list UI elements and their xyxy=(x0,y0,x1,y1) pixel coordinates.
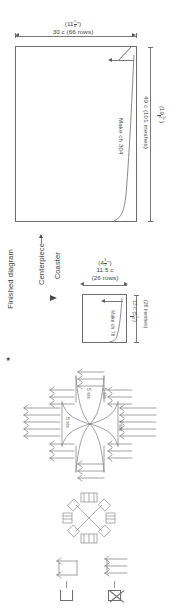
stitch-label-right: 7 sts xyxy=(118,420,123,431)
legend-open-mesh-stitches xyxy=(55,558,81,580)
coaster-width-metric-line1: 11.5 c xyxy=(82,267,128,274)
coaster-label: Coaster xyxy=(54,252,63,279)
coaster-width-arrow-left xyxy=(80,282,84,286)
centerpiece-height-dim-line xyxy=(150,47,151,221)
pattern-sheet: (1178") 30 c (66 rows) Make ch 304 49 c … xyxy=(0,0,176,615)
centerpiece-width-dim-line xyxy=(16,36,136,37)
coaster-foundation-label: Make ch 79 xyxy=(110,310,115,336)
centerpiece-width-cap-left xyxy=(15,33,16,38)
coaster-height-cap-top xyxy=(134,295,139,296)
legend-open-mesh-symbol xyxy=(60,590,73,601)
coaster-height-metric: (26 meshes) xyxy=(143,300,148,328)
centerpiece-foundation-label: Make ch 304 xyxy=(117,118,124,155)
coaster-height-imperial-text: 13 c (518") xyxy=(130,300,139,322)
centerpiece-label: Centerpiece xyxy=(38,243,47,285)
centerpiece-pointer-stem xyxy=(41,238,42,243)
centerpiece-foundation-curve xyxy=(112,55,138,223)
legend-open-mesh-connector xyxy=(66,581,67,588)
centerpiece-height-cap-bottom xyxy=(148,221,153,222)
centerpiece-height-metric: 49 c (101 meshes) xyxy=(142,96,149,149)
centerpiece-width-arrow-right xyxy=(132,33,136,37)
coaster-height-cap-bottom xyxy=(134,342,139,343)
legend-closed-mesh-connector xyxy=(114,581,115,588)
coaster-height-imperial: 13 c (518") xyxy=(130,300,139,322)
finished-diagram-label: Finished diagram xyxy=(7,249,16,309)
coaster-pointer-arrow xyxy=(49,294,58,302)
coaster-direction-arrowhead xyxy=(101,299,105,303)
stitch-label-upper-right: 5 sts xyxy=(102,388,107,399)
centerpiece-width-metric: 30 c (66 rows) xyxy=(38,29,108,36)
coaster-width-arrow-right xyxy=(124,282,128,286)
coaster-width-metric-line2: (26 rows) xyxy=(82,275,128,282)
stitch-chart-diagram xyxy=(20,368,160,480)
legend-closed-mesh-stitches xyxy=(103,556,131,580)
centerpiece-width-cap-right xyxy=(136,33,137,38)
centerpiece-height-cap-top xyxy=(148,47,153,48)
stitch-label-left: 5 sts xyxy=(65,417,70,428)
finished-diagram-marker: ★ xyxy=(6,355,11,362)
stitch-label-upper-left: 5 sts xyxy=(86,388,91,399)
centerpiece-height-imperial-text: (1914") xyxy=(157,106,166,123)
legend-closed-mesh-symbol xyxy=(108,590,121,601)
motif-diagram xyxy=(62,492,116,544)
centerpiece-height-imperial: (1914") xyxy=(157,106,166,123)
coaster-width-dim-line xyxy=(83,285,127,286)
